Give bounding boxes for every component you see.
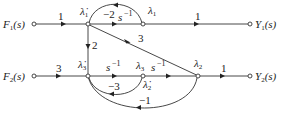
gain-fb-inner: −3: [108, 80, 120, 92]
gain-f2-in: 3: [56, 62, 62, 74]
label-lambda-dot-1: λ̇1: [79, 5, 89, 19]
arrow-icon: [61, 22, 66, 27]
label-lambda-3: λ3: [135, 59, 145, 73]
label-lambda-dot-2: λ̇2: [142, 78, 152, 92]
gain-f1-in: 1: [58, 10, 64, 22]
gain-top-fb: −2: [103, 8, 115, 20]
label-y1: Y1(s): [255, 18, 277, 32]
node-f1: [32, 22, 36, 26]
node-lambda-2: [196, 74, 200, 78]
arrow-icon: [194, 22, 199, 27]
arrow-icon: [109, 92, 114, 97]
gain-top-out: 1: [195, 10, 201, 22]
signal-flow-graph: 1 s −1 −2 1 2 3 3 s −1 s −1 −3 −1 1: [0, 0, 283, 120]
node-y1: [248, 22, 252, 26]
gain-fb-outer: −1: [139, 94, 151, 106]
gain-vert: 2: [92, 39, 98, 51]
gain-top-fwd: s: [118, 11, 122, 23]
label-f2: F2(s): [2, 70, 25, 84]
arrow-icon: [86, 44, 91, 49]
gain-diag: 3: [138, 32, 144, 44]
arrow-icon: [56, 74, 61, 79]
arrow-icon: [113, 3, 118, 8]
gain-bot-fwd1: s: [106, 61, 110, 73]
flow-graph-svg: 1 s −1 −2 1 2 3 3 s −1 s −1 −3 −1 1: [0, 0, 283, 120]
node-lambda-dot-3: [86, 74, 90, 78]
arrow-icon: [220, 74, 225, 79]
node-f2: [32, 74, 36, 78]
edge-l1-ld1-feedback: [89, 4, 142, 23]
label-y2: Y2(s): [255, 70, 277, 84]
arrow-icon: [166, 74, 171, 79]
node-lambda-dot-1: [86, 22, 90, 26]
gain-bot-fwd1-exp: −1: [112, 59, 121, 68]
node-lambda-1: [141, 22, 145, 26]
label-lambda-2: λ2: [193, 57, 203, 71]
label-f1: F1(s): [2, 18, 25, 32]
arrow-icon: [112, 74, 117, 79]
arrow-icon: [112, 22, 117, 27]
label-lambda-dot-3: λ̇3: [77, 58, 87, 72]
gain-bot-fwd2: s: [151, 61, 155, 73]
gain-bot-out: 1: [221, 62, 227, 74]
gain-top-fwd-exp: −1: [124, 9, 133, 18]
gain-bot-fwd2-exp: −1: [157, 59, 166, 68]
node-y2: [248, 74, 252, 78]
label-lambda-1: λ1: [147, 4, 157, 18]
